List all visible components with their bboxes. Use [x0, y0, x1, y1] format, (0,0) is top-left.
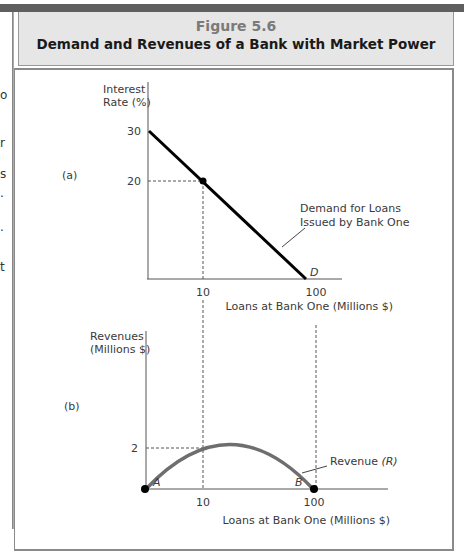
y-tick-20: 20 [127, 175, 141, 188]
annotation-leader-b [302, 466, 327, 473]
x-tick-10-b: 10 [196, 496, 210, 509]
annotation-leader-a [282, 228, 305, 247]
annotation-revenue: Revenue (R) [330, 455, 398, 468]
x-axis-label-b: Loans at Bank One (Millions $) [223, 514, 390, 527]
annotation-revenue-prefix: Revenue [330, 455, 381, 468]
panel-label-a: (a) [62, 169, 77, 182]
demand-label-d: D [310, 266, 318, 279]
point-a [141, 485, 149, 493]
demand-point [200, 178, 207, 185]
chart-canvas: (a) Interest Rate (%) 30 20 D Demand for… [0, 0, 464, 558]
x-tick-100-a: 100 [306, 286, 327, 299]
point-b-label: B [295, 476, 303, 489]
y-axis-label-b-line1: Revenues [90, 330, 144, 343]
point-b [310, 485, 318, 493]
point-a-label: A [152, 476, 161, 489]
x-tick-10-a: 10 [196, 286, 210, 299]
y-tick-2: 2 [131, 442, 138, 455]
annotation-revenue-symbol: (R) [381, 455, 397, 468]
annotation-demand-line2: Issued by Bank One [300, 216, 410, 229]
demand-line [149, 131, 306, 279]
y-tick-30: 30 [127, 125, 141, 138]
chart-b: (b) Revenues (Millions $) 2 A B Revenue … [64, 330, 398, 527]
chart-a: (a) Interest Rate (%) 30 20 D Demand for… [62, 82, 410, 313]
revenue-curve [146, 445, 313, 490]
annotation-demand-line1: Demand for Loans [300, 202, 401, 215]
y-axis-label-a-line2: Rate (%) [103, 96, 151, 109]
x-tick-100-b: 100 [304, 496, 325, 509]
y-axis-label-a-line1: Interest [103, 83, 146, 96]
panel-label-b: (b) [64, 400, 80, 413]
y-axis-label-b-line2: (Millions $) [90, 343, 150, 356]
x-axis-label-a: Loans at Bank One (Millions $) [226, 300, 393, 313]
